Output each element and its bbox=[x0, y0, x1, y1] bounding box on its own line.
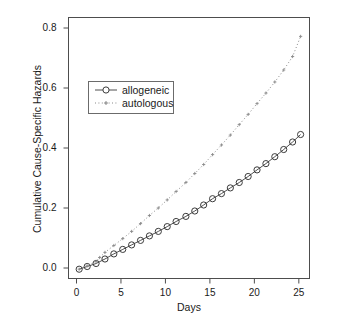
series-line-allogeneic bbox=[79, 135, 300, 270]
legend-marker-allogeneic bbox=[103, 87, 109, 93]
data-point-autologous bbox=[130, 230, 133, 233]
data-point-autologous bbox=[211, 153, 214, 156]
data-point-autologous bbox=[166, 198, 169, 201]
legend-label-allogeneic: allogeneic bbox=[122, 84, 169, 96]
x-axis-ticks bbox=[77, 279, 299, 284]
data-point-autologous bbox=[291, 55, 294, 58]
x-tick-label: 15 bbox=[198, 287, 222, 298]
x-tick-label: 5 bbox=[109, 287, 133, 298]
legend-label-autologous: autologous bbox=[122, 97, 173, 109]
data-series-group bbox=[76, 35, 304, 273]
data-point-autologous bbox=[202, 163, 205, 166]
plot-frame bbox=[69, 18, 310, 279]
x-tick-label: 10 bbox=[153, 287, 177, 298]
x-tick-label: 25 bbox=[287, 287, 311, 298]
data-point-autologous bbox=[193, 172, 196, 175]
x-tick-label: 0 bbox=[65, 287, 89, 298]
chart-figure: Cumulative Cause-Specific Hazards Days 0… bbox=[0, 0, 350, 322]
series-line-autologous bbox=[79, 36, 300, 269]
y-tick-label: 0.8 bbox=[29, 22, 57, 33]
y-tick-label: 0.6 bbox=[29, 82, 57, 93]
data-point-autologous bbox=[238, 123, 241, 126]
plot-canvas bbox=[0, 0, 350, 322]
y-tick-label: 0.2 bbox=[29, 202, 57, 213]
data-point-autologous bbox=[98, 256, 101, 259]
data-point-autologous bbox=[78, 268, 81, 271]
x-axis-label: Days bbox=[68, 301, 310, 313]
y-axis-ticks bbox=[64, 28, 69, 268]
y-tick-label: 0.0 bbox=[29, 262, 57, 273]
data-point-autologous bbox=[273, 80, 276, 83]
data-point-autologous bbox=[148, 214, 151, 217]
data-point-autologous bbox=[220, 143, 223, 146]
data-point-autologous bbox=[264, 92, 267, 95]
data-point-autologous bbox=[255, 102, 258, 105]
x-tick-label: 20 bbox=[242, 287, 266, 298]
data-point-autologous bbox=[299, 35, 302, 38]
y-tick-label: 0.4 bbox=[29, 142, 57, 153]
data-point-autologous bbox=[103, 251, 106, 254]
